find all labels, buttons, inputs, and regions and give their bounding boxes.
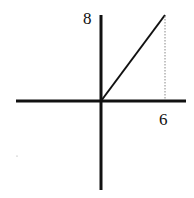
- y-tick-label: 8: [83, 9, 92, 28]
- speck: [16, 155, 17, 156]
- coordinate-diagram: 8 6: [0, 0, 194, 198]
- line-segment: [101, 15, 165, 101]
- x-tick-label: 6: [159, 110, 168, 129]
